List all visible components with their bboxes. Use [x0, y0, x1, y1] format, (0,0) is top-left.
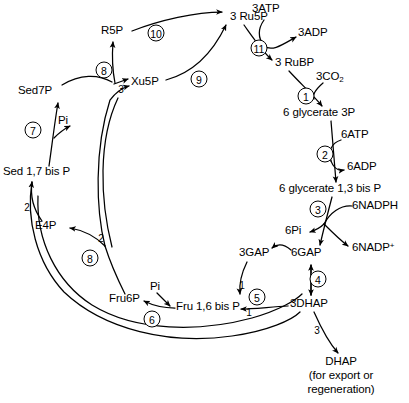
arrow-step3-to-nadp	[324, 224, 348, 246]
metabolite-rubp: 3 RuBP	[275, 56, 314, 69]
stoich-label-2-node: 2	[98, 233, 104, 244]
metabolite-xu5p: Xu5P	[131, 75, 159, 88]
metabolite-r5p: R5P	[101, 24, 123, 37]
arrow-node-to-r5p	[112, 42, 115, 83]
metabolite-nadp-plus-6: 6NADP+	[352, 241, 394, 254]
enzyme-step-8-upper[interactable]: 8	[96, 62, 113, 79]
enzyme-step-9[interactable]: 9	[191, 71, 208, 88]
metabolite-adp-6: 6ADP	[347, 160, 377, 173]
metabolite-atp-3: 3ATP	[252, 2, 280, 15]
metabolite-pi-6: 6Pi	[285, 224, 301, 237]
enzyme-step-3[interactable]: 3	[310, 201, 327, 218]
metabolite-atp-6: 6ATP	[341, 128, 369, 141]
arrow-fru6p-to-transketolase-node	[105, 246, 125, 294]
arrow-gap6-to-gap3	[272, 245, 291, 250]
stoich-label-3-xu5p: 3	[118, 84, 124, 95]
metabolite-dhap-export: DHAP	[325, 355, 357, 368]
arrow-step3-to-pi	[310, 224, 324, 232]
metabolite-co2: 3CO2	[316, 70, 344, 85]
nadp-superscript: +	[390, 241, 395, 250]
enzyme-step-2[interactable]: 2	[317, 146, 334, 163]
metabolite-pi-sedoheptulose: Pi	[58, 114, 68, 127]
metabolite-dhap-3: 3DHAP	[290, 297, 328, 310]
metabolite-glycerate-1-3-bisp: 6 glycerate 1,3 bis P	[279, 182, 381, 195]
stoich-label-2-e4p: 2	[24, 202, 30, 213]
enzyme-step-7[interactable]: 7	[25, 122, 42, 139]
metabolite-adp-3: 3ADP	[298, 26, 328, 39]
pathway-arrows-layer	[0, 0, 409, 403]
arrow-co2-into-step1	[313, 83, 323, 99]
metabolite-e4p: E4P	[35, 219, 56, 232]
enzyme-step-1[interactable]: 1	[298, 88, 315, 105]
metabolite-fru6p: Fru6P	[109, 292, 140, 305]
enzyme-step-10[interactable]: 10	[148, 25, 165, 42]
enzyme-step-6[interactable]: 6	[144, 311, 161, 328]
arrow-fru16bisp-to-fru6p	[144, 301, 175, 308]
arrow-sed17bisp-to-sed7p	[49, 103, 58, 166]
metabolite-fru-1-6-bisp: Fru 1,6 bis P	[176, 300, 240, 313]
metabolite-gap-3: 3GAP	[239, 246, 269, 259]
arrow-nadph-into-step3	[324, 206, 352, 224]
enzyme-step-11[interactable]: 11	[251, 40, 268, 57]
enzyme-step-4[interactable]: 4	[310, 271, 327, 288]
metabolite-sed7p: Sed7P	[18, 84, 52, 97]
enzyme-step-5[interactable]: 5	[249, 289, 266, 306]
stoich-label-1-gap: 1	[239, 280, 245, 291]
stoich-label-3-export: 3	[314, 325, 320, 336]
arrow-step2-to-adp	[331, 161, 344, 170]
metabolite-glycerate-3p: 6 glycerate 3P	[283, 106, 355, 119]
inner-arc-fru-to-xu5p	[103, 98, 118, 247]
arrow-step6-to-pi	[157, 293, 170, 306]
arrow-r5p-to-ru5p	[132, 12, 222, 31]
arrow-step11-to-adp	[264, 37, 296, 48]
metabolite-gap-6: 6GAP	[291, 246, 321, 259]
arrow-e4p-to-sed17bisp	[31, 182, 42, 221]
stoich-label-1-dhap: 1	[246, 307, 252, 318]
enzyme-step-8-lower[interactable]: 8	[82, 250, 99, 267]
dhap-export-note: (for export orregeneration)	[307, 369, 374, 396]
calvin-cycle-diagram: R5P 3 Ru5P 3ATP 3ADP 3 RuBP 3CO2 6 glyce…	[0, 0, 409, 403]
metabolite-pi-fructose: Pi	[150, 280, 160, 293]
metabolite-nadph-6: 6NADPH	[352, 199, 398, 212]
co2-subscript: 2	[339, 75, 343, 84]
metabolite-sed-1-7-bisp: Sed 1,7 bis P	[3, 165, 70, 178]
arrow-step7-to-pi	[54, 126, 70, 138]
